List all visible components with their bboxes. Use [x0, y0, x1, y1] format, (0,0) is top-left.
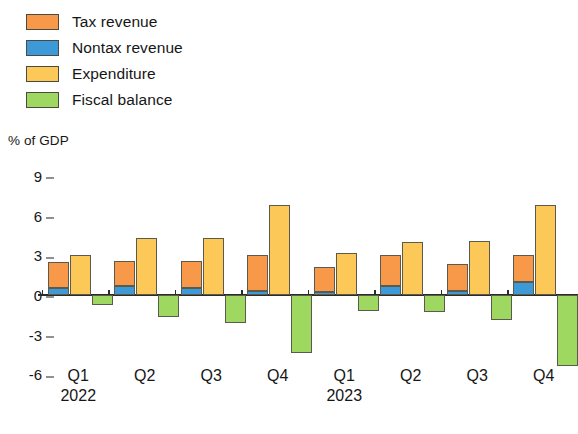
- bar-tax-revenue: [380, 255, 401, 285]
- x-axis-tick: [441, 290, 443, 295]
- x-axis-label-1: Q2: [134, 367, 155, 385]
- x-axis-year-label: 2023: [326, 387, 362, 405]
- y-axis-tick-neg6: -6: [12, 366, 54, 383]
- legend-item-nontax: Nontax revenue: [26, 36, 183, 60]
- y-axis-tick-mark: [46, 337, 54, 338]
- bar-fiscal-balance: [358, 295, 379, 311]
- fiscal-indicators-chart: Tax revenueNontax revenueExpenditureFisc…: [0, 0, 578, 434]
- bar-fiscal-balance: [557, 295, 578, 366]
- bar-expenditure: [469, 241, 490, 295]
- bar-expenditure: [336, 253, 357, 295]
- bar-tax-revenue: [314, 267, 335, 292]
- bar-expenditure: [269, 205, 290, 295]
- legend-swatch-balance: [26, 92, 59, 108]
- bar-tax-revenue: [247, 255, 268, 291]
- x-axis-label-2: Q3: [201, 367, 222, 385]
- bar-expenditure: [136, 238, 157, 295]
- x-axis-label-5: Q2: [400, 367, 421, 385]
- y-axis-title: % of GDP: [8, 133, 69, 148]
- y-axis-tick-label: 3: [34, 247, 42, 264]
- y-axis-tick-label: 9: [34, 167, 42, 184]
- x-axis-label-6: Q3: [467, 367, 488, 385]
- bar-fiscal-balance: [92, 295, 113, 306]
- y-axis-tick-neg3: -3: [12, 326, 54, 343]
- bar-nontax-revenue: [181, 288, 202, 295]
- bar-nontax-revenue: [247, 291, 268, 295]
- bar-tax-revenue: [114, 261, 135, 286]
- x-axis-tick: [108, 290, 110, 295]
- bar-nontax-revenue: [314, 292, 335, 295]
- bar-fiscal-balance: [491, 295, 512, 320]
- legend-item-tax: Tax revenue: [26, 10, 183, 34]
- x-axis-label-4: Q1: [334, 367, 355, 385]
- legend-swatch-nontax: [26, 40, 59, 56]
- bar-fiscal-balance: [158, 295, 179, 317]
- bar-tax-revenue: [48, 262, 69, 288]
- plot-area: 9630-3-6Q12022Q2Q3Q4Q12023Q2Q3Q4: [46, 168, 578, 390]
- y-axis-tick-mark: [46, 257, 54, 258]
- y-axis-tick-label: -6: [29, 366, 42, 383]
- x-axis-tick: [374, 290, 376, 295]
- chart-legend: Tax revenueNontax revenueExpenditureFisc…: [26, 10, 183, 114]
- bar-fiscal-balance: [225, 295, 246, 323]
- y-axis-tick-mark: [46, 297, 54, 298]
- y-axis-tick-mark: [46, 218, 54, 219]
- x-axis-year-label: 2022: [60, 387, 96, 405]
- bar-nontax-revenue: [447, 291, 468, 295]
- y-axis-tick-label: -3: [29, 326, 42, 343]
- y-axis-tick-9: 9: [12, 167, 54, 184]
- y-axis-tick-mark: [46, 178, 54, 179]
- bar-nontax-revenue: [380, 286, 401, 295]
- bar-expenditure: [70, 255, 91, 295]
- legend-label-tax: Tax revenue: [72, 14, 158, 30]
- x-axis-tick: [175, 290, 177, 295]
- plot-inner: 9630-3-6Q12022Q2Q3Q4Q12023Q2Q3Q4: [46, 168, 578, 390]
- x-axis-tick: [308, 290, 310, 295]
- legend-swatch-exp: [26, 66, 59, 82]
- bar-nontax-revenue: [513, 282, 534, 295]
- bar-tax-revenue: [447, 264, 468, 290]
- bar-fiscal-balance: [291, 295, 312, 353]
- bar-expenditure: [402, 242, 423, 295]
- bar-tax-revenue: [181, 261, 202, 289]
- x-axis-tick: [241, 290, 243, 295]
- bar-expenditure: [203, 238, 224, 295]
- y-axis-tick-mark: [46, 376, 54, 377]
- legend-item-balance: Fiscal balance: [26, 88, 183, 112]
- bar-nontax-revenue: [114, 286, 135, 295]
- x-axis-label-0: Q1: [68, 367, 89, 385]
- legend-label-exp: Expenditure: [72, 66, 156, 82]
- x-axis-label-7: Q4: [533, 367, 554, 385]
- y-axis-tick-6: 6: [12, 207, 54, 224]
- x-axis-tick: [42, 290, 44, 295]
- legend-label-nontax: Nontax revenue: [72, 40, 183, 56]
- legend-label-balance: Fiscal balance: [72, 92, 172, 108]
- bar-nontax-revenue: [48, 288, 69, 295]
- bar-tax-revenue: [513, 255, 534, 281]
- x-axis-label-3: Q4: [267, 367, 288, 385]
- legend-item-exp: Expenditure: [26, 62, 183, 86]
- bar-fiscal-balance: [424, 295, 445, 312]
- bar-expenditure: [535, 205, 556, 295]
- legend-swatch-tax: [26, 14, 59, 30]
- x-axis-tick: [507, 290, 509, 295]
- y-axis-tick-label: 6: [34, 207, 42, 224]
